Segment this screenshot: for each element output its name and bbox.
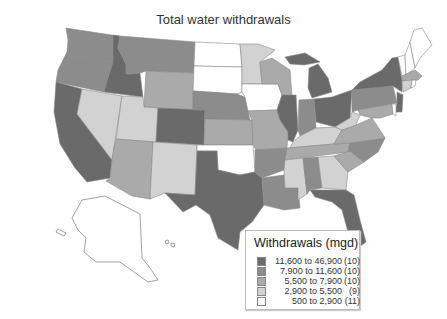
legend-swatch [257, 277, 266, 286]
state-NY[interactable] [352, 57, 402, 92]
legend-range: 2,900 to 5,500 [270, 286, 342, 296]
legend: Withdrawals (mgd) 11,600 to 46,900 (10) … [245, 230, 360, 310]
state-KS[interactable] [204, 119, 253, 145]
legend-range: 500 to 2,900 [270, 296, 342, 306]
state-AK[interactable] [72, 196, 158, 282]
legend-range: 11,600 to 46,900 [270, 256, 342, 266]
legend-swatch [257, 257, 266, 266]
hawaii-island [171, 243, 175, 247]
state-MI-lower[interactable] [308, 64, 332, 98]
state-RI[interactable] [411, 80, 416, 88]
state-ND[interactable] [194, 42, 242, 67]
legend-swatch [257, 267, 266, 276]
state-HI[interactable] [165, 240, 169, 244]
us-choropleth-map [0, 0, 447, 319]
legend-swatch [257, 297, 266, 306]
state-MI[interactable] [285, 53, 320, 65]
state-CO[interactable] [156, 108, 205, 145]
legend-item: 5,500 to 7,900 (10) [257, 276, 360, 286]
legend-item: 2,900 to 5,500 (9) [257, 286, 360, 296]
state-AR[interactable] [255, 148, 287, 178]
legend-count: (10) [342, 256, 360, 266]
legend-count: (9) [342, 286, 360, 296]
legend-count: (10) [342, 266, 360, 276]
legend-range: 5,500 to 7,900 [270, 276, 342, 286]
legend-item: 7,900 to 11,600 (10) [257, 266, 360, 276]
legend-item: 11,600 to 46,900 (10) [257, 256, 360, 266]
state-IA[interactable] [242, 84, 282, 111]
alaska-island [56, 229, 66, 236]
legend-title: Withdrawals (mgd) [254, 236, 358, 250]
state-SD[interactable] [193, 66, 242, 94]
state-CT[interactable] [402, 80, 412, 92]
legend-range: 7,900 to 11,600 [270, 266, 342, 276]
legend-item: 500 to 2,900 (11) [257, 296, 360, 306]
state-MT[interactable] [118, 36, 195, 74]
legend-count: (11) [342, 296, 360, 306]
legend-count: (10) [342, 276, 360, 286]
legend-swatch [257, 287, 266, 296]
state-NM[interactable] [150, 142, 197, 199]
state-WY[interactable] [144, 71, 194, 110]
